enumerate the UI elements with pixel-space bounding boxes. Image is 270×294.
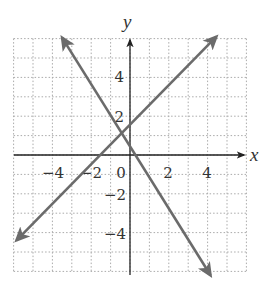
x-tick-label: 2 [163, 164, 173, 182]
x-tick-label: −4 [42, 164, 64, 182]
x-tick-label: 4 [202, 164, 212, 182]
y-tick-label: 4 [114, 68, 124, 86]
y-axis-label: y [121, 11, 132, 32]
y-tick-label: −4 [104, 225, 126, 243]
y-tick-label: −2 [104, 186, 126, 204]
x-tick-label: 0 [116, 164, 126, 182]
x-axis-label: x [249, 144, 259, 165]
coordinate-plane: x y −4 −2 0 2 4 4 2 −2 −4 [0, 0, 270, 294]
line-decreasing [62, 38, 210, 276]
